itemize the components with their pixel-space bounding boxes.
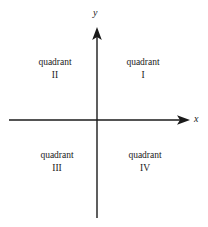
x-axis-label: x (194, 114, 198, 124)
quadrant-label-iv: quadrant IV (101, 149, 189, 175)
coordinate-plane-figure: y x quadrant II quadrant I quadrant III … (0, 0, 208, 227)
quadrant-iv-word: quadrant (101, 149, 189, 162)
quadrant-ii-numeral: II (11, 69, 99, 82)
quadrant-iv-numeral: IV (101, 162, 189, 175)
quadrant-ii-word: quadrant (11, 56, 99, 69)
quadrant-i-numeral: I (99, 69, 187, 82)
quadrant-i-word: quadrant (99, 56, 187, 69)
quadrant-label-ii: quadrant II (11, 56, 99, 82)
quadrant-iii-word: quadrant (13, 149, 101, 162)
quadrant-label-iii: quadrant III (13, 149, 101, 175)
quadrant-label-i: quadrant I (99, 56, 187, 82)
quadrant-iii-numeral: III (13, 162, 101, 175)
y-axis-label: y (93, 8, 97, 18)
axes-diagram (0, 0, 208, 227)
